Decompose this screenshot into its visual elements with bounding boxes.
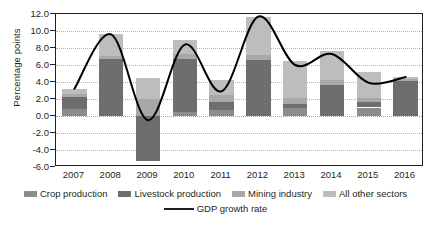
plot-area	[55, 13, 423, 166]
legend-row-swatches: Crop productionLivestock productionMinin…	[0, 188, 431, 199]
legend-item-all-other-sectors: All other sectors	[323, 188, 407, 199]
x-axis-tick-label: 2016	[394, 169, 415, 180]
y-axis-tick-label: 8.0	[9, 42, 49, 53]
legend-swatch-icon	[323, 191, 336, 197]
y-axis-tick-mark	[50, 166, 55, 167]
gdp-growth-line	[56, 14, 424, 167]
x-axis-tick-label: 2008	[100, 169, 121, 180]
legend-label: Livestock production	[134, 188, 221, 199]
legend-swatch-icon	[24, 191, 37, 197]
legend-label: GDP growth rate	[197, 203, 268, 214]
legend-line-icon	[164, 208, 194, 210]
x-axis-tick-label: 2014	[320, 169, 341, 180]
legend-item-livestock-production: Livestock production	[118, 188, 221, 199]
y-axis-tick-label: -2.0	[9, 127, 49, 138]
y-axis-tick-label: 10.0	[9, 25, 49, 36]
legend-label: Crop production	[40, 188, 108, 199]
y-axis-tick-label: 4.0	[9, 76, 49, 87]
y-axis-tick-label: 6.0	[9, 59, 49, 70]
legend-swatch-icon	[232, 191, 245, 197]
legend-item-gdp-growth-rate: GDP growth rate	[164, 203, 268, 214]
legend-item-mining-industry: Mining industry	[232, 188, 312, 199]
legend-label: Mining industry	[248, 188, 312, 199]
legend-label: All other sectors	[339, 188, 407, 199]
y-axis-tick-label: 0.0	[9, 110, 49, 121]
legend-row-line: GDP growth rate	[0, 203, 431, 214]
chart-legend: Crop productionLivestock productionMinin…	[0, 188, 431, 214]
legend-swatch-icon	[118, 191, 131, 197]
gdp-growth-line-path	[74, 16, 405, 120]
y-axis-tick-label: 2.0	[9, 93, 49, 104]
x-axis-tick-label: 2012	[247, 169, 268, 180]
x-axis-tick-label: 2015	[357, 169, 378, 180]
chart-container: Percentage points 12.010.08.06.04.02.00.…	[0, 0, 431, 232]
y-axis-tick-label: -4.0	[9, 144, 49, 155]
legend-item-crop-production: Crop production	[24, 188, 108, 199]
x-axis-tick-label: 2009	[136, 169, 157, 180]
y-axis-tick-label: 12.0	[9, 8, 49, 19]
y-axis-tick-label: -6.0	[9, 161, 49, 172]
x-axis-tick-label: 2007	[63, 169, 84, 180]
x-axis-tick-label: 2010	[173, 169, 194, 180]
x-axis-tick-label: 2013	[284, 169, 305, 180]
x-axis-tick-label: 2011	[210, 169, 230, 180]
